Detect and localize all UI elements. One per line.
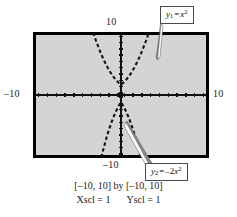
plot-canvas [33, 32, 209, 158]
callout-y2-exponent: 2 [178, 165, 181, 172]
caption-yscl: Yscl = 1 [127, 194, 161, 205]
axis-label-bottom: –10 [103, 159, 119, 170]
caption-xscl: Xscl = 1 [77, 194, 111, 205]
caption: [–10, 10] by [–10, 10] Xscl = 1Yscl = 1 [0, 180, 237, 205]
callout-y1-exponent: 2 [184, 8, 187, 15]
axis-label-left: –10 [4, 88, 20, 99]
callout-y2: y2=–2x2 [145, 163, 188, 181]
axis-label-right: 10 [213, 88, 223, 99]
axes [35, 34, 207, 156]
figure-container: 10 –10 10 –10 y1=x2 y2=–2x2 [–10, 10] by… [0, 0, 237, 217]
caption-window: [–10, 10] by [–10, 10] [0, 180, 237, 191]
caption-scales: Xscl = 1Yscl = 1 [0, 194, 237, 205]
callout-y1: y1=x2 [160, 6, 194, 24]
axis-label-top: 10 [106, 16, 116, 27]
